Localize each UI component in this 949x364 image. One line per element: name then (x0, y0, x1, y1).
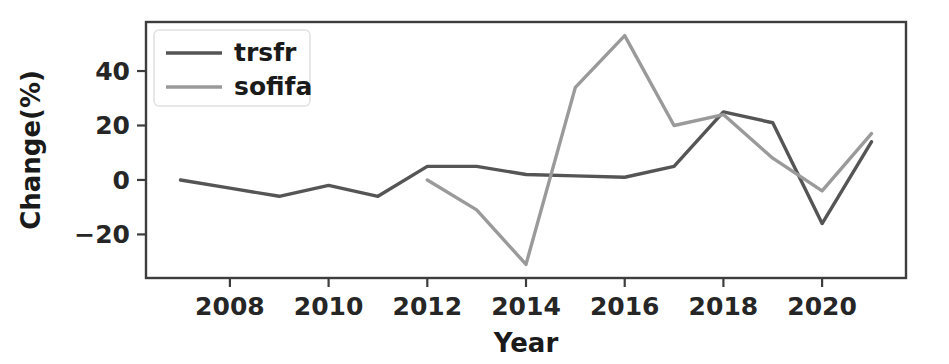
y-tick-label: −20 (74, 220, 130, 249)
x-axis-ticks: 2008201020122014201620182020 (195, 278, 857, 321)
x-tick-label: 2018 (689, 292, 759, 321)
chart-legend[interactable]: trsfr sofifa (154, 30, 312, 106)
x-tick-label: 2010 (294, 292, 364, 321)
chart-figure: −2002040 2008201020122014201620182020 Ch… (0, 0, 949, 364)
x-axis-title: Year (493, 328, 559, 358)
legend-label-sofifa: sofifa (234, 72, 312, 101)
y-axis-title: Change(%) (16, 70, 46, 230)
x-tick-label: 2008 (195, 292, 265, 321)
y-axis-ticks: −2002040 (74, 57, 146, 249)
x-tick-label: 2016 (590, 292, 660, 321)
series-line-trsfr (181, 112, 872, 224)
y-tick-label: 0 (113, 166, 130, 195)
line-chart-canvas: −2002040 2008201020122014201620182020 Ch… (0, 0, 949, 364)
x-tick-label: 2014 (491, 292, 561, 321)
x-tick-label: 2012 (393, 292, 463, 321)
legend-label-trsfr: trsfr (234, 38, 297, 67)
y-tick-label: 40 (95, 57, 130, 86)
x-tick-label: 2020 (787, 292, 857, 321)
series-line-sofifa (427, 36, 871, 265)
y-tick-label: 20 (95, 111, 130, 140)
